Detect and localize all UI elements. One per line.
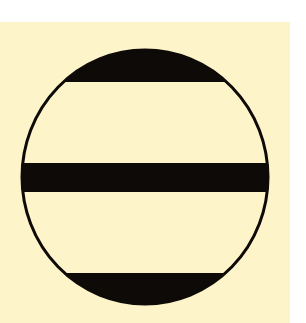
figure-canvas: [0, 0, 306, 323]
band-top-cap: [17, 50, 273, 82]
band-middle-bar: [17, 163, 273, 192]
band-bottom-cap: [17, 273, 273, 304]
banded-circle-icon: [0, 0, 306, 323]
